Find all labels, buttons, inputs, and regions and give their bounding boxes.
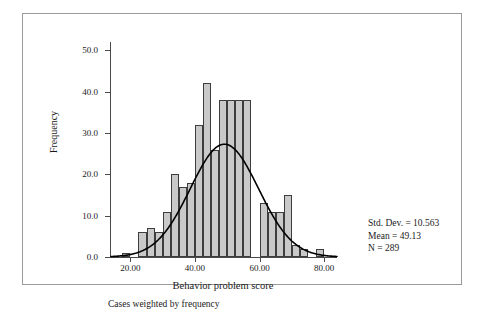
normal-curve-path [111,144,337,256]
plot-area: 0.010.020.030.040.050.0 20.0040.0060.008… [110,42,335,257]
x-tick [260,257,261,262]
y-tick-label: 50.0 [82,45,98,55]
y-axis-title: Frequency [48,111,59,153]
x-tick [195,257,196,262]
x-tick [324,257,325,262]
y-tick-label: 10.0 [82,211,98,221]
x-tick-label: 40.00 [185,263,205,273]
statistics-box: Std. Dev. = 10.563 Mean = 49.13 N = 289 [368,217,439,255]
y-tick-label: 20.0 [82,169,98,179]
y-tick: 30.0 [105,133,110,134]
y-tick: 20.0 [105,174,110,175]
x-tick-label: 80.00 [314,263,334,273]
y-tick: 50.0 [105,50,110,51]
y-tick-label: 0.0 [87,252,98,262]
y-tick-label: 40.0 [82,87,98,97]
y-tick-label: 30.0 [82,128,98,138]
footnote: Cases weighted by frequency [108,299,220,309]
mean-label: Mean = 49.13 [368,230,439,243]
n-label: N = 289 [368,242,439,255]
figure-frame: Frequency 0.010.020.030.040.050.0 20.004… [22,13,462,285]
normal-curve-overlay [111,42,337,257]
x-axis-title: Behavior problem score [173,280,274,291]
x-tick-label: 20.00 [120,263,140,273]
y-tick: 0.0 [105,257,110,258]
x-tick-label: 60.00 [249,263,269,273]
x-tick [130,257,131,262]
std-dev-label: Std. Dev. = 10.563 [368,217,439,230]
x-axis-line [110,257,337,258]
y-tick: 10.0 [105,216,110,217]
y-tick: 40.0 [105,92,110,93]
